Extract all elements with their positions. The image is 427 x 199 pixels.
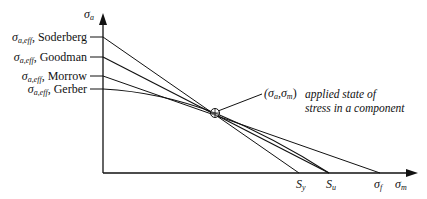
criterion-name: Morrow — [48, 69, 87, 83]
point-close: ) — [293, 86, 297, 100]
point-comma: ,σ — [278, 86, 287, 100]
y-axis-subscript: a — [90, 13, 94, 22]
y-axis-label: σa — [84, 8, 94, 24]
y-axis-arrow-icon — [99, 13, 107, 25]
point-annotation-line1: applied state of — [305, 88, 376, 101]
subscript: u — [332, 183, 336, 192]
point-label: (σa,σm) — [264, 87, 297, 103]
intercept-sy: Sy — [296, 178, 306, 194]
subscript: f — [380, 183, 382, 192]
criterion-name: Goodman — [40, 50, 87, 64]
intercept-su: Su — [326, 178, 336, 194]
x-axis-arrow-icon — [406, 169, 418, 177]
point-annotation-leader — [218, 94, 262, 111]
label-goodman: σa,eff, Goodman — [14, 51, 87, 67]
x-axis-subscript: m — [401, 183, 407, 192]
point-annotation-line2: stress in a component — [305, 102, 405, 115]
soderberg-line — [103, 37, 299, 173]
subscript: a,eff — [20, 56, 34, 65]
criterion-name: Gerber — [54, 82, 87, 96]
point-open: (σ — [264, 86, 274, 100]
subscript: y — [302, 183, 306, 192]
label-gerber: σa,eff, Gerber — [28, 83, 87, 99]
intercept-sigma-f: σf — [374, 178, 382, 194]
subscript: a,eff — [18, 36, 32, 45]
criterion-name: Soderberg — [38, 30, 87, 44]
haigh-diagram: σa σa,eff, Soderberg σa,eff, Goodman σa,… — [0, 0, 427, 199]
x-axis-label: σm — [395, 178, 407, 194]
subscript: a,eff — [34, 88, 48, 97]
label-soderberg: σa,eff, Soderberg — [12, 31, 87, 47]
